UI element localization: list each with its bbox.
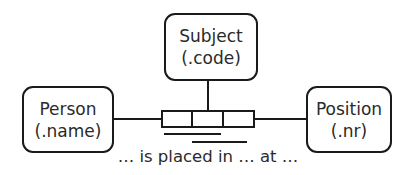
entity-person[interactable]: Person (.name) (22, 86, 114, 153)
entity-person-ref: (.name) (35, 120, 102, 142)
entity-person-name: Person (39, 98, 96, 120)
fact-type-roles[interactable] (162, 111, 254, 127)
entity-subject[interactable]: Subject (.code) (164, 13, 258, 81)
fact-type-box[interactable] (162, 111, 254, 127)
fact-type-reading: … is placed in … at … (110, 147, 306, 166)
entity-position[interactable]: Position (.nr) (306, 86, 392, 153)
entity-position-ref: (.nr) (331, 120, 367, 142)
entity-subject-ref: (.code) (181, 47, 241, 69)
entity-subject-name: Subject (179, 25, 243, 47)
entity-position-name: Position (316, 98, 382, 120)
